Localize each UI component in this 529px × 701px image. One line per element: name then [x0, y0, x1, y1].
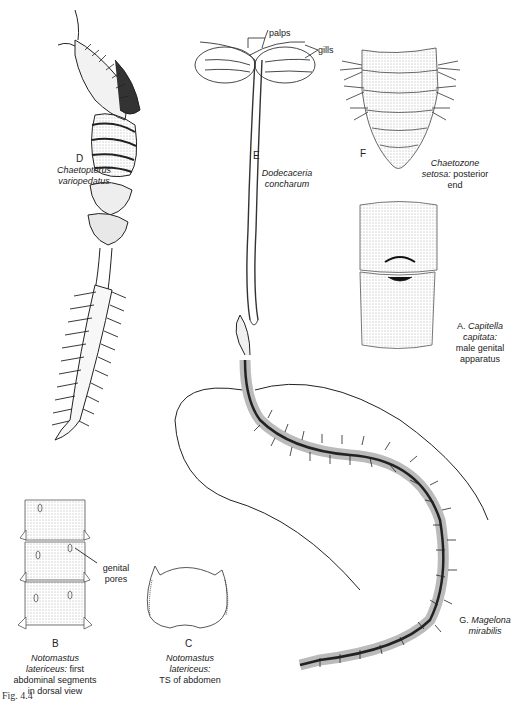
panel-c-note: TS of abdomen	[140, 675, 240, 686]
panel-g-title: G. Magelona	[440, 615, 529, 626]
panel-e-species: concharum	[232, 179, 342, 190]
panel-f-note-inline: posterior	[453, 169, 488, 179]
genital-pores-line-2: pores	[98, 574, 134, 585]
panel-f-letter: F	[360, 148, 366, 159]
panel-d-species: variopedatus	[24, 176, 144, 187]
panel-b-note-inline: first	[70, 664, 85, 674]
panel-f-genus: Chaetozone	[400, 158, 510, 169]
genital-pores-line-1: genital	[98, 563, 134, 574]
panel-c-letter: C	[185, 638, 192, 649]
notomastus-dorsal-drawing	[18, 500, 92, 629]
palps-callout: palps	[269, 28, 291, 39]
panel-g-species: mirabilis	[440, 626, 529, 637]
panel-e-genus: Dodecaceria	[232, 168, 342, 179]
panel-g-genus: Magelona	[471, 615, 511, 625]
panel-c-species: latericeus:	[140, 664, 240, 675]
panel-f-note: end	[400, 180, 510, 191]
panel-e-letter: E	[253, 150, 260, 161]
panel-b-species: latericeus:	[26, 664, 67, 674]
panel-f-species-note: setosa: posterior	[400, 169, 510, 180]
capitella-drawing	[360, 202, 437, 349]
panel-b-genus: Notomastus	[5, 653, 105, 664]
panel-a-species: capitata:	[430, 332, 529, 343]
figure-plate: D Chaetopterus variopedatus palps gills …	[0, 0, 529, 701]
panel-f-species: setosa:	[422, 169, 451, 179]
panel-g-letter: G.	[459, 615, 469, 625]
chaetopterus-drawing	[52, 10, 140, 440]
panel-a-letter: A.	[457, 321, 466, 331]
chaetozone-drawing	[340, 48, 460, 169]
panel-b-letter: B	[52, 638, 59, 649]
notomastus-ts-drawing	[147, 566, 227, 628]
panel-b-species-note: latericeus: first	[5, 664, 105, 675]
panel-d-letter: D	[76, 153, 83, 164]
panel-a-note-line-1: male genital	[430, 343, 529, 354]
panel-c-genus: Notomastus	[140, 653, 240, 664]
panel-b-note-line-1: abdominal segments	[5, 675, 105, 686]
figure-caption-fragment: Fig. 4.4	[2, 690, 33, 701]
panel-a-title: A. Capitella	[430, 321, 529, 332]
panel-d-genus: Chaetopterus	[24, 165, 144, 176]
panel-a-note-line-2: apparatus	[430, 354, 529, 365]
gills-callout: gills	[318, 45, 334, 56]
panel-a-genus: Capitella	[468, 321, 503, 331]
